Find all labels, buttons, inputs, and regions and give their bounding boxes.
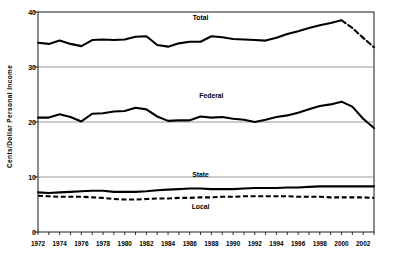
series-line-total (38, 20, 341, 46)
x-axis-tick-label: 1982 (139, 240, 153, 247)
y-axis-title: Cents/Dollar Personal Income (2, 0, 16, 232)
series-label-state: State (192, 171, 209, 178)
x-axis-tick-label: 2000 (334, 240, 348, 247)
x-axis-tick-label: 1990 (226, 240, 240, 247)
series-line-local (38, 196, 374, 200)
chart-container: Cents/Dollar Personal Income 010203040 1… (0, 0, 393, 264)
x-axis-tick-label: 1998 (313, 240, 327, 247)
x-axis-tick-label: 1994 (269, 240, 283, 247)
x-axis-tick-label: 1978 (96, 240, 110, 247)
x-axis-tick-label: 1974 (53, 240, 67, 247)
series-line-federal (38, 102, 374, 128)
series-label-federal: Federal (199, 92, 223, 99)
x-axis-tick-label: 1984 (161, 240, 175, 247)
series-line-state (38, 186, 374, 193)
x-axis-tick-label: 1988 (204, 240, 218, 247)
series-label-total: Total (193, 14, 209, 21)
y-axis-tick-label: 10 (28, 174, 36, 181)
y-axis-tick-label: 0 (32, 229, 36, 236)
y-axis-tick-label: 40 (28, 9, 36, 16)
plot-area (0, 0, 393, 264)
series-line-total-projected (341, 20, 374, 47)
x-axis-tick-label: 2002 (356, 240, 370, 247)
x-axis-tick-label: 1980 (118, 240, 132, 247)
x-axis-tick-label: 1976 (74, 240, 88, 247)
x-axis-tick-label: 1996 (291, 240, 305, 247)
y-axis-tick-label: 30 (28, 64, 36, 71)
series-label-local: Local (192, 203, 210, 210)
x-axis-tick-label: 1986 (183, 240, 197, 247)
x-axis-tick-label: 1992 (248, 240, 262, 247)
y-axis-tick-label: 20 (28, 119, 36, 126)
x-axis-tick-label: 1972 (31, 240, 45, 247)
y-axis-tick-labels: 010203040 (16, 0, 36, 264)
